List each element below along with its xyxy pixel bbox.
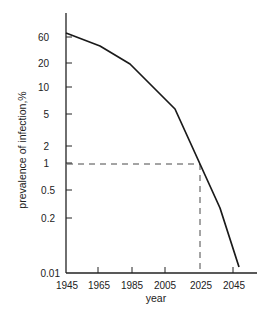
svg-text:2045: 2045 — [223, 280, 246, 291]
svg-text:1965: 1965 — [88, 280, 111, 291]
x-ticks — [98, 267, 233, 273]
svg-text:2025: 2025 — [190, 280, 213, 291]
prevalence-line — [66, 33, 239, 267]
svg-text:2: 2 — [43, 141, 49, 152]
svg-text:60: 60 — [38, 32, 50, 43]
svg-text:0.2: 0.2 — [41, 213, 55, 224]
x-axis-label: year — [146, 292, 167, 304]
svg-text:1: 1 — [43, 158, 49, 169]
y-ticks — [66, 37, 72, 218]
y-axis-label: prevalence of infection,% — [16, 91, 28, 208]
svg-text:10: 10 — [38, 82, 50, 93]
prevalence-chart: 60 20 10 5 2 1 0.5 0.2 0.01 1945 1965 19… — [0, 0, 265, 323]
reference-dashed-lines — [67, 164, 200, 273]
svg-text:5: 5 — [43, 109, 49, 120]
svg-text:0.5: 0.5 — [41, 185, 55, 196]
svg-text:1985: 1985 — [121, 280, 144, 291]
svg-text:0.01: 0.01 — [41, 268, 61, 279]
svg-text:1945: 1945 — [56, 280, 79, 291]
svg-text:20: 20 — [38, 58, 50, 69]
y-tick-labels: 60 20 10 5 2 1 0.5 0.2 0.01 — [38, 32, 61, 279]
x-tick-labels: 1945 1965 1985 2005 2025 2045 — [56, 280, 246, 291]
svg-text:2005: 2005 — [154, 280, 177, 291]
